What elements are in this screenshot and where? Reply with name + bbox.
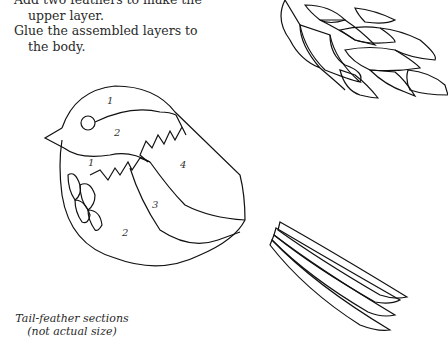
label-cap-2: 2 [113, 127, 120, 138]
bird-outline [45, 86, 245, 266]
tail-feathers [270, 222, 407, 330]
caption-line-2: (not actual size) [2, 325, 142, 338]
label-wing-3: 3 [152, 199, 158, 210]
label-belly-2: 2 [121, 227, 128, 238]
feather-cluster [281, 0, 448, 98]
caption-line-1: Tail-feather sections [2, 312, 142, 325]
figure-caption: Tail-feather sections (not actual size) [2, 312, 142, 338]
bird-diagram: 1 2 1 4 3 2 [0, 0, 448, 344]
label-head-1: 1 [107, 95, 113, 106]
section-labels: 1 2 1 4 3 2 [88, 95, 186, 238]
label-back-4: 4 [179, 159, 186, 170]
label-neck-1: 1 [88, 157, 94, 168]
